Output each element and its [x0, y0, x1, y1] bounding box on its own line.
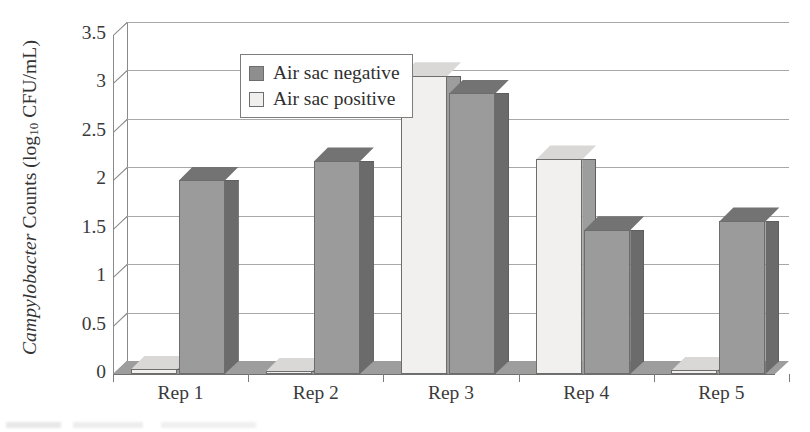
bar-front-face: [449, 93, 495, 374]
bar-rep-1-air-sac-negative: [179, 180, 225, 374]
bar-front-face: [266, 371, 312, 374]
bar-front-face: [536, 159, 582, 374]
bar-rep-4-air-sac-positive: [536, 159, 582, 374]
bar-rep-5-air-sac-positive: [671, 370, 717, 374]
bar-front-face: [314, 161, 360, 374]
x-tick-end: [789, 374, 790, 382]
bar-front-face: [179, 180, 225, 374]
y-tick-mark: [113, 22, 128, 36]
bar-side-face: [225, 180, 239, 374]
y-axis-title-subscript: 10: [26, 123, 41, 136]
bar-rep-3-air-sac-negative: [449, 93, 495, 374]
legend-swatch-dark-icon: [249, 66, 264, 81]
x-tick-4: [519, 374, 520, 382]
y-tick-mark: [113, 70, 128, 84]
legend-label-air-sac-positive: Air sac positive: [273, 88, 395, 110]
y-tick-mark: [113, 167, 128, 181]
y-tick-label-1.5: 1.5: [82, 216, 106, 238]
y-tick-label-2: 2: [96, 167, 106, 189]
x-tick-2: [248, 374, 249, 382]
plot-area: 00.511.522.533.5 Air sac negative Air sa…: [113, 22, 789, 374]
legend-label-air-sac-negative: Air sac negative: [273, 62, 400, 84]
y-tick-2.5: 2.5: [113, 119, 127, 132]
y-axis-title-italic-part: Campylobacter: [19, 233, 40, 355]
y-tick-label-0.5: 0.5: [82, 313, 106, 335]
scan-edge-artifact: [6, 422, 256, 428]
y-tick-mark: [113, 119, 128, 133]
bar-rep-5-air-sac-negative: [719, 221, 765, 374]
gridline-3: [127, 70, 789, 71]
y-tick-1.5: 1.5: [113, 216, 127, 229]
bar-side-face: [360, 161, 374, 374]
y-tick-label-3.5: 3.5: [82, 22, 106, 44]
bar-rep-3-air-sac-positive: [401, 76, 447, 374]
x-axis-label-rep-2: Rep 2: [248, 382, 383, 404]
y-tick-0.5: 0.5: [113, 313, 127, 326]
y-tick-label-2.5: 2.5: [82, 119, 106, 141]
y-tick-mark: [113, 313, 128, 327]
x-tick-3: [383, 374, 384, 382]
y-tick-label-1: 1: [96, 264, 106, 286]
bar-front-face: [671, 370, 717, 374]
y-tick-mark: [113, 216, 128, 230]
y-tick-3: 3: [113, 70, 127, 83]
y-axis-title-part-3: CFU/mL): [19, 40, 40, 123]
bar-front-face: [131, 369, 177, 374]
x-axis-line: [113, 374, 775, 375]
y-axis-title: Campylobacter Counts (log10 CFU/mL): [19, 8, 42, 388]
chart-figure: Campylobacter Counts (log10 CFU/mL) 00.5…: [0, 0, 810, 432]
bar-rep-2-air-sac-positive: [266, 371, 312, 374]
bar-rep-1-air-sac-positive: [131, 369, 177, 374]
x-tick-1: [113, 374, 114, 382]
bar-side-face: [495, 93, 509, 374]
y-tick-label-0: 0: [96, 361, 106, 383]
bar-front-face: [584, 230, 630, 374]
chart-legend: Air sac negative Air sac positive: [240, 54, 413, 118]
y-tick-1: 1: [113, 264, 127, 277]
y-tick-mark: [113, 264, 128, 278]
y-tick-3.5: 3.5: [113, 22, 127, 35]
bar-rep-2-air-sac-negative: [314, 161, 360, 374]
legend-swatch-light-icon: [249, 92, 264, 107]
x-tick-5: [654, 374, 655, 382]
bar-front-face: [401, 76, 447, 374]
y-tick-label-3: 3: [96, 70, 106, 92]
x-axis-label-rep-5: Rep 5: [654, 382, 789, 404]
bar-side-face: [630, 230, 644, 374]
x-axis-labels: Rep 1Rep 2Rep 3Rep 4Rep 5: [113, 382, 789, 412]
x-axis-label-rep-3: Rep 3: [383, 382, 518, 404]
x-axis-label-rep-1: Rep 1: [113, 382, 248, 404]
legend-item-air-sac-positive: Air sac positive: [249, 86, 400, 112]
y-tick-2: 2: [113, 167, 127, 180]
bar-front-face: [719, 221, 765, 374]
gridline-3.5: [127, 22, 789, 23]
bar-side-face: [765, 221, 779, 374]
x-axis-label-rep-4: Rep 4: [519, 382, 654, 404]
legend-item-air-sac-negative: Air sac negative: [249, 60, 400, 86]
y-axis-title-part-2: Counts (log: [19, 136, 40, 234]
bar-rep-4-air-sac-negative: [584, 230, 630, 374]
